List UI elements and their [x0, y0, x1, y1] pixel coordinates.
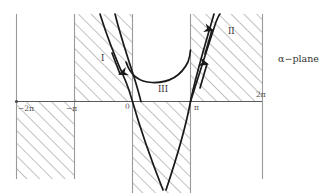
region-label-II: II — [228, 27, 235, 36]
hatched-bands — [16, 14, 262, 193]
hatch-below-band-3 — [132, 101, 190, 193]
curve-center-u — [126, 50, 191, 83]
region-label-III: III — [158, 85, 168, 94]
figure-canvas — [0, 0, 325, 193]
plane-label: α−plane — [278, 54, 319, 64]
tick-label-2pi: 2π — [256, 91, 266, 99]
tick-label-minus-2pi: −2π — [18, 105, 34, 113]
tick-label-zero: 0 — [125, 103, 130, 111]
alpha-plane-figure: −2π −π 0 π 2π I II III α−plane — [0, 0, 325, 193]
region-label-I: I — [101, 54, 104, 63]
tick-label-minus-pi: −π — [66, 105, 77, 113]
tick-label-pi: π — [194, 104, 199, 112]
